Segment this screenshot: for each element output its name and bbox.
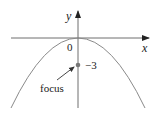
origin-label: 0 — [67, 41, 73, 53]
focus-value-label: −3 — [85, 59, 97, 71]
x-axis-label: x — [141, 41, 148, 55]
focus-pointer-arrow — [57, 67, 74, 80]
focus-point — [76, 63, 81, 68]
y-axis-label: y — [65, 9, 72, 23]
parabola-diagram: y x 0 −3 focus — [0, 0, 161, 118]
focus-label: focus — [40, 82, 64, 94]
